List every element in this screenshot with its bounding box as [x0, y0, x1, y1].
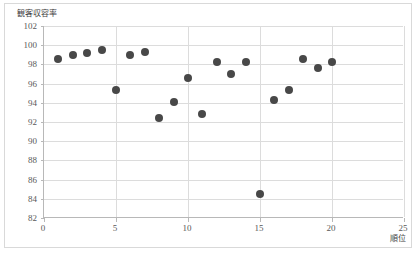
- x-tick-mark: [116, 218, 117, 222]
- scatter-point: [314, 64, 322, 72]
- scatter-point: [170, 98, 178, 106]
- scatter-point: [256, 190, 264, 198]
- x-axis-title: 順位: [390, 232, 406, 243]
- gridline-horizontal: [44, 180, 403, 181]
- x-tick-label: 0: [28, 223, 58, 233]
- gridline-horizontal: [44, 26, 403, 27]
- y-tick-mark: [41, 64, 44, 65]
- gridline-horizontal: [44, 84, 403, 85]
- y-tick-mark: [41, 84, 44, 85]
- scatter-point: [184, 74, 192, 82]
- gridline-horizontal: [44, 141, 403, 142]
- gridline-horizontal: [44, 160, 403, 161]
- scatter-point: [126, 51, 134, 59]
- scatter-point: [141, 48, 149, 56]
- scatter-point: [69, 51, 77, 59]
- x-tick-mark: [332, 218, 333, 222]
- gridline-horizontal: [44, 199, 403, 200]
- x-tick-mark: [404, 218, 405, 222]
- scatter-point: [83, 49, 91, 57]
- x-tick-mark: [188, 218, 189, 222]
- y-tick-mark: [41, 160, 44, 161]
- x-tick-label: 15: [244, 223, 274, 233]
- y-tick-mark: [41, 103, 44, 104]
- y-tick-mark: [41, 122, 44, 123]
- y-tick-label: 102: [7, 21, 37, 31]
- scatter-point: [299, 55, 307, 63]
- y-tick-mark: [41, 45, 44, 46]
- x-tick-label: 10: [172, 223, 202, 233]
- gridline-horizontal: [44, 45, 403, 46]
- y-tick-label: 92: [7, 117, 37, 127]
- y-tick-mark: [41, 26, 44, 27]
- y-tick-label: 88: [7, 155, 37, 165]
- y-tick-mark: [41, 199, 44, 200]
- y-axis-title: 観客収容率: [17, 7, 57, 18]
- x-tick-mark: [260, 218, 261, 222]
- chart-frame: 観客収容率 順位 828486889092949698100102 051015…: [4, 3, 412, 248]
- scatter-point: [54, 55, 62, 63]
- y-tick-label: 84: [7, 194, 37, 204]
- y-tick-label: 100: [7, 40, 37, 50]
- gridline-vertical: [260, 26, 261, 217]
- gridline-horizontal: [44, 64, 403, 65]
- gridline-horizontal: [44, 103, 403, 104]
- gridline-vertical: [404, 26, 405, 217]
- scatter-point: [227, 70, 235, 78]
- x-tick-label: 25: [388, 223, 418, 233]
- y-tick-label: 98: [7, 59, 37, 69]
- y-tick-label: 94: [7, 98, 37, 108]
- plot-area: [43, 26, 403, 218]
- y-tick-label: 82: [7, 213, 37, 223]
- x-tick-mark: [44, 218, 45, 222]
- scatter-point: [98, 46, 106, 54]
- gridline-vertical: [332, 26, 333, 217]
- y-tick-mark: [41, 180, 44, 181]
- scatter-point: [155, 114, 163, 122]
- gridline-vertical: [188, 26, 189, 217]
- y-tick-mark: [41, 141, 44, 142]
- x-tick-label: 5: [100, 223, 130, 233]
- scatter-point: [112, 86, 120, 94]
- y-tick-label: 86: [7, 175, 37, 185]
- scatter-point: [198, 110, 206, 118]
- gridline-horizontal: [44, 122, 403, 123]
- gridline-vertical: [116, 26, 117, 217]
- y-tick-label: 90: [7, 136, 37, 146]
- scatter-point: [285, 86, 293, 94]
- y-tick-label: 96: [7, 79, 37, 89]
- x-tick-label: 20: [316, 223, 346, 233]
